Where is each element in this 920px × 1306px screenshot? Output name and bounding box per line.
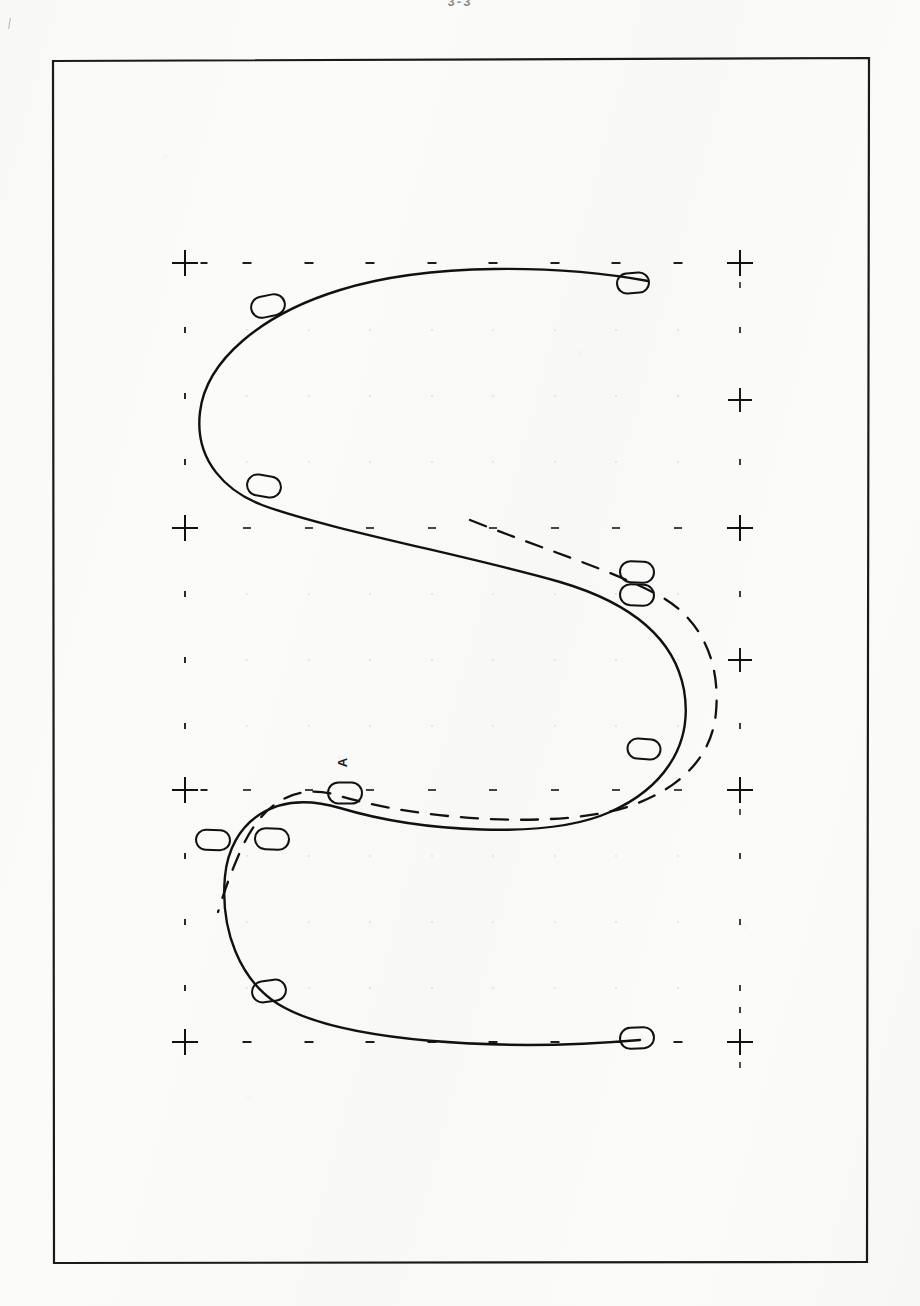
grid-dot [554,593,556,595]
grid-dot [431,659,433,661]
marker-8 [196,829,231,850]
grid-dot [492,659,494,661]
grid-dot [615,461,617,463]
grid-dot [246,593,248,595]
data-markers [196,272,661,1049]
grid-dot [492,725,494,727]
grid-dot [308,593,310,595]
grid-dot [369,855,371,857]
grid-dot [246,921,248,923]
grid-cross [172,777,198,803]
grid-dot [246,329,248,331]
figure-canvas [0,0,920,1306]
grid-dot [677,395,679,397]
grid-dot [308,329,310,331]
grid-dot [431,395,433,397]
grid-cross [727,1029,753,1055]
grid-dot [492,921,494,923]
grid-dot [554,855,556,857]
grid-dot [369,461,371,463]
grid-dot [369,987,371,989]
grid-dot [369,329,371,331]
grid-dot [431,461,433,463]
grid-dot [246,987,248,989]
grid-dot [615,855,617,857]
grid-dot [246,659,248,661]
grid-dot [246,725,248,727]
grid-dot [369,659,371,661]
grid-dot [677,921,679,923]
grid-cross [727,777,753,803]
tick-grid [172,250,753,1068]
grid-cross [172,250,198,276]
grid-dot [308,395,310,397]
grid-dot [246,395,248,397]
grid-dot [308,461,310,463]
grid-dot [308,725,310,727]
grid-dot [492,461,494,463]
grid-dot [677,461,679,463]
grid-dot [431,725,433,727]
grid-dot [554,461,556,463]
grid-dot [431,987,433,989]
grid-dot [431,329,433,331]
grid-dot [554,725,556,727]
grid-dot [369,725,371,727]
grid-dot [308,659,310,661]
grid-dot [615,921,617,923]
grid-dot [554,659,556,661]
marker-1 [616,272,649,294]
grid-cross [172,515,198,541]
grid-dot [492,593,494,595]
grid-dot [677,725,679,727]
grid-dot [492,855,494,857]
dashed-curve [218,520,717,912]
annotation-label-a: A [335,758,350,767]
grid-dot [677,987,679,989]
grid-dot [615,329,617,331]
grid-dot [677,659,679,661]
marker-6 [627,738,661,760]
grid-dot [369,593,371,595]
grid-dot [369,921,371,923]
grid-dot [615,395,617,397]
grid-dot [677,329,679,331]
grid-dot [554,395,556,397]
grid-dot [492,329,494,331]
solid-curve [199,269,685,1045]
grid-dot [431,921,433,923]
grid-dot [615,987,617,989]
grid-dot [554,329,556,331]
grid-dot [246,461,248,463]
marker-10 [251,978,288,1004]
grid-dot [308,987,310,989]
grid-dot [431,593,433,595]
grid-dot [554,987,556,989]
curve-series [199,269,716,1045]
marker-11 [619,1027,654,1050]
grid-dot [246,855,248,857]
grid-dot [308,921,310,923]
grid-dot [615,593,617,595]
grid-dot [492,395,494,397]
grid-cross [727,250,753,276]
grid-dot [615,659,617,661]
grid-dot [369,395,371,397]
grid-cross [727,515,753,541]
grid-dot [492,987,494,989]
grid-dot [615,725,617,727]
grid-dot [677,593,679,595]
marker-5 [620,584,655,606]
grid-cross [172,1029,198,1055]
marker-9 [255,828,290,850]
grid-dot [431,855,433,857]
grid-dot [554,921,556,923]
marker-4 [620,561,655,583]
marker-3 [246,473,283,499]
grid-dot [677,855,679,857]
grid-dot [308,855,310,857]
grid-cross [728,388,752,412]
